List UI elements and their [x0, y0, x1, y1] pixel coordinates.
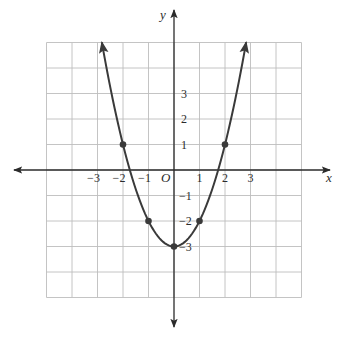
data-point	[120, 141, 127, 148]
origin-label: O	[161, 170, 171, 185]
data-point	[196, 218, 203, 225]
axes: x y O	[14, 7, 332, 327]
y-tick-label: 1	[181, 138, 187, 152]
x-axis-label: x	[325, 170, 332, 185]
y-tick-label: −1	[179, 189, 192, 203]
data-point	[145, 218, 152, 225]
parabola-graph: x y O −3−2−1123321−1−2−3	[0, 0, 353, 344]
data-point	[222, 141, 229, 148]
data-point	[171, 243, 178, 250]
x-tick-label: −2	[113, 171, 126, 185]
x-tick-label: 1	[197, 171, 203, 185]
y-tick-label: −2	[179, 214, 192, 228]
y-tick-label: 3	[181, 87, 187, 101]
x-tick-label: −1	[138, 171, 151, 185]
x-tick-label: 3	[248, 171, 254, 185]
x-tick-label: −3	[87, 171, 100, 185]
y-axis-label: y	[158, 7, 166, 22]
x-tick-label: 2	[222, 171, 228, 185]
y-tick-label: 2	[181, 112, 187, 126]
